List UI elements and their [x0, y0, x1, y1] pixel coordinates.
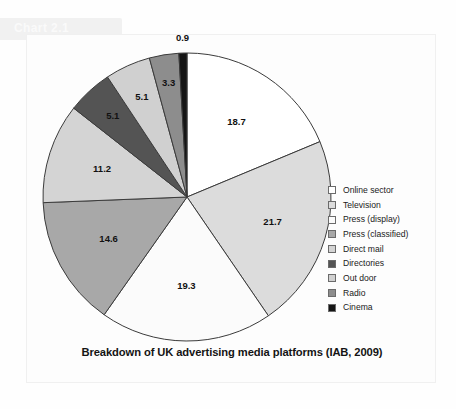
- pie-slice-value-label: 14.6: [99, 233, 118, 244]
- pie-slice-value-label: 21.7: [263, 216, 282, 227]
- legend-swatch-icon: [328, 289, 336, 297]
- legend-item[interactable]: Television: [328, 198, 440, 213]
- legend-item[interactable]: Press (display): [328, 212, 440, 227]
- legend-item-label: Press (classified): [343, 230, 408, 239]
- chart-title: Breakdown of UK advertising media platfo…: [41, 346, 423, 358]
- pie-slice-value-label: 18.7: [227, 116, 246, 127]
- chart-card: 18.721.719.314.611.25.15.13.30.9 Online …: [26, 34, 436, 383]
- pie-slice-value-label: 3.3: [162, 77, 175, 88]
- legend-item-label: Out door: [343, 274, 376, 283]
- legend-swatch-icon: [328, 304, 336, 312]
- legend-item[interactable]: Radio: [328, 286, 440, 301]
- pie-slice-value-label: 5.1: [135, 91, 149, 102]
- legend-item-label: Directories: [343, 259, 384, 268]
- legend-item[interactable]: Directories: [328, 256, 440, 271]
- legend-swatch-icon: [328, 245, 336, 253]
- pie-slice-value-label: 19.3: [177, 280, 196, 291]
- legend-item[interactable]: Cinema: [328, 301, 440, 316]
- legend-item-label: Radio: [343, 289, 365, 298]
- legend-item-label: Cinema: [343, 303, 373, 312]
- pie-slice-value-label: 11.2: [93, 163, 111, 174]
- chart-page: Chart 2.1 18.721.719.314.611.25.15.13.30…: [0, 0, 456, 409]
- legend-item[interactable]: Press (classified): [328, 227, 440, 242]
- legend-item[interactable]: Out door: [328, 271, 440, 286]
- legend-item-label: Online sector: [343, 186, 394, 195]
- legend-item[interactable]: Direct mail: [328, 242, 440, 257]
- pie-slice-value-label: 0.9: [176, 35, 189, 43]
- legend-item[interactable]: Online sector: [328, 183, 440, 198]
- legend-swatch-icon: [328, 230, 336, 238]
- legend-swatch-icon: [328, 274, 336, 282]
- legend-item-label: Direct mail: [343, 245, 384, 254]
- pie-slice-value-label: 5.1: [106, 110, 120, 121]
- legend-swatch-icon: [328, 260, 336, 268]
- legend-swatch-icon: [328, 201, 336, 209]
- legend-item-label: Television: [343, 201, 381, 210]
- chart-number-label: Chart 2.1: [14, 21, 69, 35]
- chart-legend: Online sectorTelevisionPress (display)Pr…: [328, 183, 440, 315]
- legend-swatch-icon: [328, 216, 336, 224]
- legend-swatch-icon: [328, 186, 336, 194]
- legend-item-label: Press (display): [343, 215, 400, 224]
